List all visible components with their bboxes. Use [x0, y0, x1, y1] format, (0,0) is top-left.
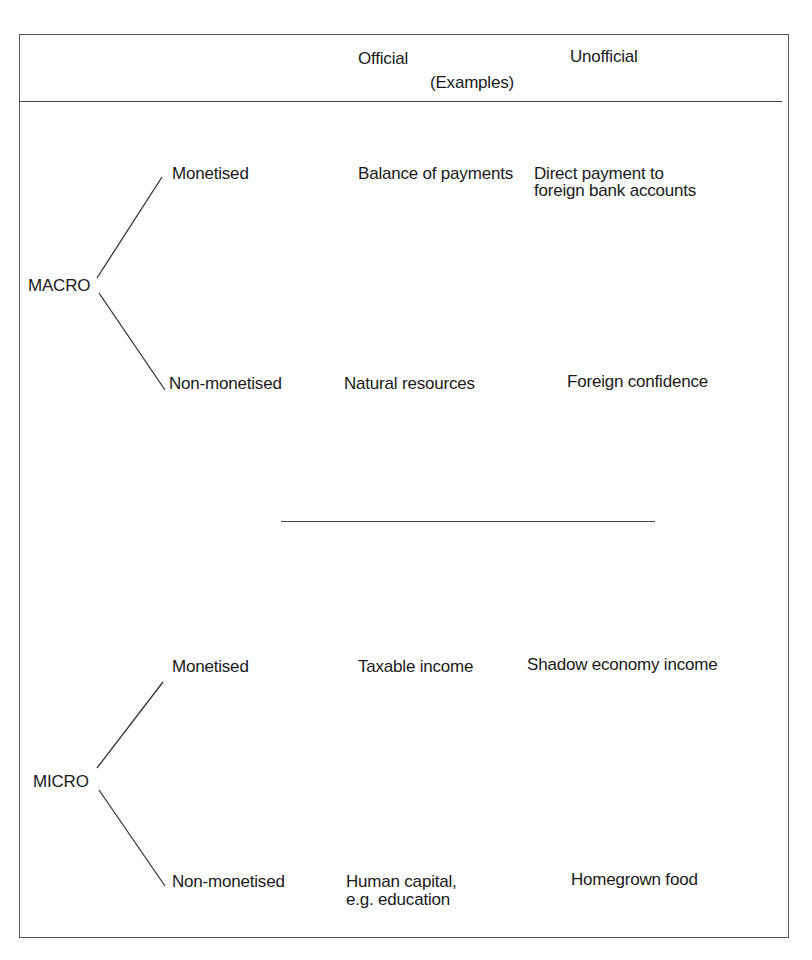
section-separator — [281, 521, 655, 522]
micro-monetised-unofficial: Shadow economy income — [527, 656, 717, 674]
macro-nonmonetised-official: Natural resources — [344, 375, 475, 393]
macro-monetised-official: Balance of payments — [358, 165, 513, 183]
section-label-micro: MICRO — [33, 773, 89, 791]
macro-monetised-label: Monetised — [172, 165, 249, 183]
macro-monetised-unofficial-l2: foreign bank accounts — [534, 182, 696, 200]
micro-nonmonetised-unofficial: Homegrown food — [571, 871, 698, 889]
micro-nonmonetised-official-l1: Human capital, — [346, 873, 457, 891]
macro-nonmonetised-unofficial: Foreign confidence — [567, 373, 708, 391]
micro-nonmonetised-official-l2: e.g. education — [346, 891, 450, 909]
macro-nonmonetised-label: Non-monetised — [169, 375, 282, 393]
micro-monetised-label: Monetised — [172, 658, 249, 676]
tree-branches — [0, 0, 812, 960]
section-label-macro: MACRO — [28, 277, 90, 295]
micro-nonmonetised-label: Non-monetised — [172, 873, 285, 891]
micro-monetised-official: Taxable income — [358, 658, 473, 676]
